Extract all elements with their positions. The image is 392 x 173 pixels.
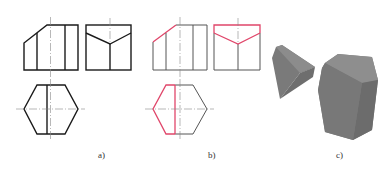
panel-c-label: c) [336, 150, 343, 160]
panel-a-label: a) [98, 150, 105, 160]
panel-b-label: b) [208, 150, 216, 160]
figure-canvas [0, 0, 392, 173]
remaining-solid [318, 54, 378, 140]
panel-a-front-view [24, 17, 78, 77]
panel-a [16, 17, 131, 140]
removed-piece-solid [272, 45, 315, 99]
panel-a-top-view [16, 79, 85, 140]
panel-b-front-view [153, 17, 207, 77]
panel-b-side-view [214, 18, 260, 70]
panel-c [272, 45, 378, 140]
panel-b [145, 17, 260, 140]
panel-a-side-view [86, 18, 131, 70]
panel-b-top-view [145, 79, 214, 140]
